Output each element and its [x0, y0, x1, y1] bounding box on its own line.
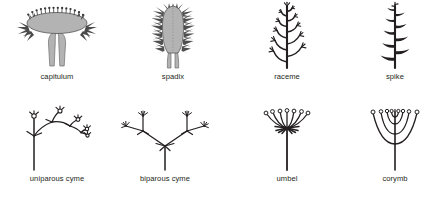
capitulum-illustration	[2, 0, 112, 78]
uniparous-branches	[34, 111, 88, 136]
capitulum-stalk	[48, 30, 65, 66]
caption-umbel: umbel	[232, 174, 342, 183]
spadix-illustration	[118, 0, 228, 78]
biparous-cyme-illustration	[110, 100, 220, 178]
diagram-cell-spike: spike	[340, 0, 442, 100]
biparous-flowers	[122, 111, 209, 128]
raceme-apex	[284, 2, 289, 6]
diagram-cell-capitulum: capitulum	[2, 0, 112, 100]
biparous-secondary-branches	[126, 116, 204, 131]
biparous-primary-branches	[143, 131, 187, 146]
diagram-cell-spadix: spadix	[118, 0, 228, 100]
spike-apex	[392, 2, 398, 6]
umbel-illustration	[232, 100, 342, 178]
diagram-cell-biparous-cyme: biparous cyme	[110, 100, 220, 200]
corymb-illustration	[340, 100, 442, 178]
caption-biparous-cyme: biparous cyme	[110, 174, 220, 183]
diagram-cell-uniparous-cyme: uniparous cyme	[2, 100, 112, 200]
spadix-stalk	[167, 52, 178, 68]
diagram-cell-raceme: raceme	[232, 0, 342, 100]
uniparous-cyme-illustration	[2, 100, 112, 178]
spike-illustration	[340, 0, 442, 78]
raceme-illustration	[232, 0, 342, 78]
caption-spike: spike	[340, 72, 442, 81]
caption-capitulum: capitulum	[2, 72, 112, 81]
caption-raceme: raceme	[232, 72, 342, 81]
caption-uniparous-cyme: uniparous cyme	[2, 174, 112, 183]
caption-spadix: spadix	[118, 72, 228, 81]
diagram-cell-umbel: umbel	[232, 100, 342, 200]
spike-sessile-flowers	[381, 8, 410, 61]
caption-corymb: corymb	[340, 174, 442, 183]
diagram-cell-corymb: corymb	[340, 100, 442, 200]
inflorescence-figure: capitulum	[0, 0, 442, 200]
